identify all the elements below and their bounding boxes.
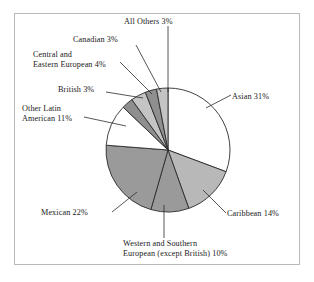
slice-label-mexican-text: Mexican 22%	[41, 208, 88, 217]
slice-label-caribbean-text: Caribbean 14%	[227, 209, 279, 218]
slice-label-all-others: All Others 3%	[124, 17, 173, 27]
pie-slices-group	[106, 88, 230, 212]
slice-label-other-latin-line1: Other Latin	[22, 104, 72, 114]
slice-label-canadian-text: Canadian 3%	[73, 35, 118, 44]
slice-label-western-line1: Western and Southern	[123, 239, 228, 249]
slice-label-all-others-text: All Others 3%	[124, 17, 173, 26]
leader-line-british	[106, 92, 143, 98]
leader-line-canadian	[136, 45, 161, 92]
leader-line-caribbean	[203, 190, 226, 213]
slice-label-british: British 3%	[58, 85, 94, 95]
slice-label-asian: Asian 31%	[232, 92, 269, 102]
leader-line-asian	[206, 95, 231, 108]
slice-label-central-line2: Eastern European 4%	[33, 60, 106, 70]
pie-chart-figure: All Others 3% Canadian 3% Central and Ea…	[0, 0, 314, 282]
slice-label-caribbean: Caribbean 14%	[227, 209, 279, 219]
slice-label-central-eastern-european: Central and Eastern European 4%	[33, 50, 106, 70]
slice-label-asian-text: Asian 31%	[232, 92, 269, 101]
slice-label-other-latin-line2: American 11%	[22, 114, 72, 124]
slice-label-canadian: Canadian 3%	[73, 35, 118, 45]
slice-label-central-line1: Central and	[33, 50, 106, 60]
slice-label-british-text: British 3%	[58, 85, 94, 94]
slice-label-other-latin-american: Other Latin American 11%	[22, 104, 72, 124]
slice-label-western-southern-european: Western and Southern European (except Br…	[123, 239, 228, 259]
slice-label-western-line2: European (except British) 10%	[123, 249, 228, 259]
slice-label-mexican: Mexican 22%	[41, 208, 88, 218]
